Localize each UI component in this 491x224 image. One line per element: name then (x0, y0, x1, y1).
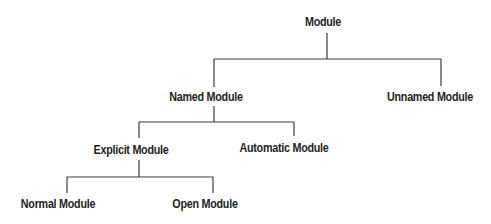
node-automatic-module: Automatic Module (232, 141, 336, 155)
node-named-module: Named Module (163, 90, 248, 104)
node-normal-module-label: Normal Module (21, 197, 95, 211)
node-module: Module (302, 15, 344, 29)
node-open-module: Open Module (167, 197, 243, 211)
node-named-module-label: Named Module (169, 90, 242, 104)
node-unnamed-module-label: Unnamed Module (387, 90, 473, 104)
node-normal-module: Normal Module (15, 197, 101, 211)
node-explicit-module: Explicit Module (87, 143, 174, 157)
connector-lines (0, 0, 491, 224)
module-hierarchy-diagram: Module Named Module Unnamed Module Expli… (0, 0, 491, 224)
node-open-module-label: Open Module (172, 197, 237, 211)
node-automatic-module-label: Automatic Module (239, 141, 328, 155)
node-unnamed-module: Unnamed Module (380, 90, 480, 104)
node-module-label: Module (305, 15, 341, 29)
node-explicit-module-label: Explicit Module (94, 143, 169, 157)
